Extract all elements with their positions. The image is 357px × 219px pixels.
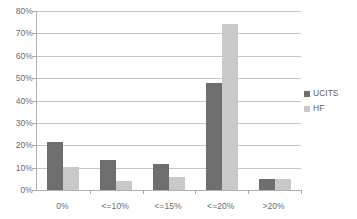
y-axis-tick-label: 40% <box>5 97 33 106</box>
bar-group <box>100 11 132 190</box>
x-axis-tickmark <box>90 190 91 194</box>
x-axis-tick-label: <=15% <box>142 202 195 211</box>
legend-label: UCITS <box>313 89 339 98</box>
bar-hf-20 <box>222 24 238 190</box>
bar-group <box>153 11 185 190</box>
bar-ucits-20 <box>259 179 275 190</box>
x-axis: 0%<=10%<=15%<=20%>20% <box>36 196 300 214</box>
legend-label: HF <box>313 104 324 113</box>
bar-group <box>206 11 238 190</box>
legend-swatch-icon <box>304 91 310 97</box>
x-axis-tickmark <box>301 190 302 194</box>
x-axis-tickmark <box>248 190 249 194</box>
bar-ucits-0 <box>47 142 63 190</box>
bar-hf-0 <box>63 167 79 190</box>
bar-hf-10 <box>116 181 132 190</box>
y-axis-tick-label: 20% <box>5 141 33 150</box>
bar-group <box>259 11 291 190</box>
bars-layer <box>37 11 301 190</box>
x-axis-tickmark <box>195 190 196 194</box>
y-axis-tick-label: 30% <box>5 119 33 128</box>
y-axis-tick-label: 0% <box>5 186 33 195</box>
x-axis-tick-label: <=10% <box>89 202 142 211</box>
bar-ucits-20 <box>206 83 222 190</box>
x-axis-tick-label: 0% <box>36 202 89 211</box>
y-axis-tick-label: 50% <box>5 74 33 83</box>
x-axis-tick-label: >20% <box>247 202 300 211</box>
y-axis-tick-label: 60% <box>5 52 33 61</box>
y-axis-tick-label: 70% <box>5 29 33 38</box>
plot-area <box>36 11 301 191</box>
bar-hf-20 <box>275 179 291 190</box>
y-axis-tick-label: 10% <box>5 164 33 173</box>
x-axis-tick-label: <=20% <box>194 202 247 211</box>
bar-ucits-15 <box>153 164 169 190</box>
legend-item-hf[interactable]: HF <box>304 101 357 116</box>
chart-legend: UCITSHF <box>304 86 357 116</box>
y-axis: 0%10%20%30%40%50%60%70%80% <box>0 0 33 219</box>
bar-group <box>47 11 79 190</box>
y-axis-tick-label: 80% <box>5 7 33 16</box>
legend-swatch-icon <box>304 106 310 112</box>
bar-chart: 0%10%20%30%40%50%60%70%80% 0%<=10%<=15%<… <box>0 0 357 219</box>
legend-item-ucits[interactable]: UCITS <box>304 86 357 101</box>
bar-ucits-10 <box>100 160 116 190</box>
y-axis-tickmark <box>33 190 37 191</box>
bar-hf-15 <box>169 177 185 190</box>
x-axis-tickmark <box>143 190 144 194</box>
